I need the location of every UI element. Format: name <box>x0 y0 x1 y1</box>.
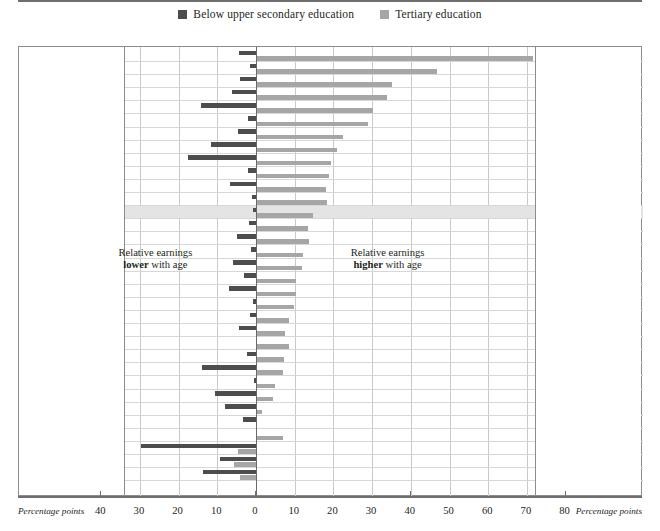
bar-tertiary <box>256 187 326 192</box>
axis-tick-label: 30 <box>134 505 145 516</box>
axis-tick-label: 40 <box>95 505 106 516</box>
square-swatch-light-icon <box>380 10 389 19</box>
bar-tertiary <box>240 475 256 480</box>
axis-tick-mark <box>410 491 411 497</box>
bar-below-upper-secondary <box>229 286 256 291</box>
bar-tertiary <box>256 397 273 402</box>
top-divider-rule <box>18 0 642 2</box>
bar-tertiary <box>256 174 329 179</box>
axis-caption-left: Percentage points <box>18 506 84 516</box>
bar-tertiary <box>256 305 294 310</box>
bar-tertiary <box>256 266 302 271</box>
bar-below-upper-secondary <box>248 116 256 121</box>
bar-below-upper-secondary <box>225 404 256 409</box>
bar-tertiary <box>256 122 368 127</box>
axis-tick-label: 80 <box>559 505 570 516</box>
bar-tertiary <box>256 226 308 231</box>
legend-label-below-upper-secondary: Below upper secondary education <box>193 8 354 20</box>
bar-below-upper-secondary <box>220 457 256 462</box>
zero-axis-line <box>256 47 257 497</box>
legend-item-below-upper-secondary: Below upper secondary education <box>178 8 354 20</box>
x-axis: Percentage points Percentage points 4030… <box>18 496 642 531</box>
chart-legend: Below upper secondary education Tertiary… <box>0 8 660 20</box>
bar-tertiary <box>256 253 303 258</box>
axis-tick-mark <box>255 491 256 497</box>
bar-below-upper-secondary <box>233 260 256 265</box>
legend-item-tertiary: Tertiary education <box>380 8 482 20</box>
legend-label-tertiary: Tertiary education <box>395 8 482 20</box>
bar-below-upper-secondary <box>238 129 256 134</box>
bar-tertiary <box>256 318 289 323</box>
bar-tertiary <box>256 56 533 61</box>
annotation-left-bold: lower <box>123 259 148 270</box>
bar-below-upper-secondary <box>188 155 256 160</box>
bar-tertiary <box>256 279 296 284</box>
bar-tertiary <box>256 200 327 205</box>
annotation-left-line1: Relative earnings <box>118 247 192 258</box>
bar-tertiary <box>256 436 283 441</box>
bar-tertiary <box>256 108 373 113</box>
bar-tertiary <box>234 462 256 467</box>
bar-tertiary <box>256 344 289 349</box>
bar-below-upper-secondary <box>201 103 256 108</box>
annotation-higher-with-age: Relative earnings higher with age <box>328 247 448 272</box>
bar-tertiary <box>238 449 256 454</box>
bar-below-upper-secondary <box>239 51 256 56</box>
annotation-right-line1: Relative earnings <box>351 247 425 258</box>
bar-tertiary <box>256 370 283 375</box>
bar-tertiary <box>256 135 343 140</box>
axis-tick-label: 50 <box>443 505 454 516</box>
right-label-gutter <box>535 47 641 495</box>
bar-tertiary <box>256 148 337 153</box>
bar-tertiary <box>256 213 313 218</box>
bar-below-upper-secondary <box>249 221 256 226</box>
bar-tertiary <box>256 161 331 166</box>
bar-tertiary <box>256 331 285 336</box>
bar-below-upper-secondary <box>141 444 256 449</box>
annotation-right-rest: with age <box>383 259 422 270</box>
bar-below-upper-secondary <box>230 182 256 187</box>
axis-tick-label: 20 <box>172 505 183 516</box>
bar-below-upper-secondary <box>248 168 256 173</box>
axis-tick-label: 60 <box>482 505 493 516</box>
annotation-right-bold: higher <box>353 259 382 270</box>
axis-tick-label: 0 <box>252 505 257 516</box>
bar-below-upper-secondary <box>211 142 256 147</box>
axis-tick-label: 30 <box>366 505 377 516</box>
bar-below-upper-secondary <box>237 234 256 239</box>
axis-tick-label: 20 <box>327 505 338 516</box>
axis-tick-label: 10 <box>211 505 222 516</box>
annotation-left-rest: with age <box>149 259 188 270</box>
axis-caption-right: Percentage points <box>576 506 642 516</box>
bar-below-upper-secondary <box>239 326 256 331</box>
bar-tertiary <box>256 69 437 74</box>
bar-below-upper-secondary <box>215 391 256 396</box>
axis-tick-mark <box>565 491 566 497</box>
bar-below-upper-secondary <box>202 365 256 370</box>
bar-below-upper-secondary <box>247 352 256 357</box>
axis-rule <box>18 496 642 498</box>
bar-below-upper-secondary <box>243 417 256 422</box>
annotation-lower-with-age: Relative earnings lower with age <box>95 247 215 272</box>
square-swatch-dark-icon <box>178 10 187 19</box>
bar-tertiary <box>256 95 387 100</box>
bar-tertiary <box>256 82 392 87</box>
bar-below-upper-secondary <box>203 470 256 475</box>
chart-plot-frame: Korea KoreaItaly1 Italy1Poland PolandSlo… <box>18 46 642 496</box>
bar-tertiary <box>256 292 296 297</box>
axis-tick-label: 40 <box>405 505 416 516</box>
axis-tick-label: 70 <box>521 505 532 516</box>
bar-below-upper-secondary <box>240 77 256 82</box>
axis-tick-label: 10 <box>288 505 299 516</box>
bar-tertiary <box>256 384 275 389</box>
bar-below-upper-secondary <box>232 90 256 95</box>
bar-tertiary <box>256 239 309 244</box>
bar-below-upper-secondary <box>244 273 256 278</box>
bar-tertiary <box>256 357 284 362</box>
axis-tick-mark <box>100 491 101 497</box>
